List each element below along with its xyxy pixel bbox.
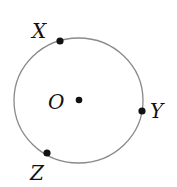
- point-x: [56, 37, 63, 44]
- label-y: Y: [150, 99, 165, 123]
- circle-diagram: X Y Z O: [0, 0, 177, 187]
- label-x: X: [30, 19, 47, 43]
- label-o: O: [48, 90, 64, 114]
- point-z: [43, 149, 50, 156]
- point-o-center: [76, 97, 83, 104]
- point-y: [138, 107, 145, 114]
- label-z: Z: [29, 161, 45, 185]
